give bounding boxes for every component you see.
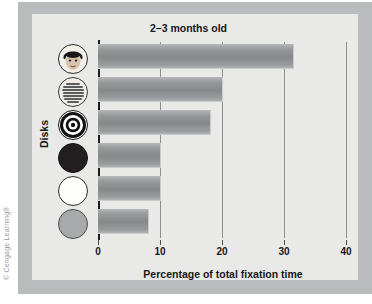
disk-swatch-layer xyxy=(0,0,372,304)
disk-printed-text xyxy=(58,77,88,107)
bullseye-icon xyxy=(59,111,87,139)
disk-solid-black xyxy=(58,143,88,173)
face-icon xyxy=(59,45,87,73)
disk-gray xyxy=(58,209,88,239)
disk-face xyxy=(58,44,88,74)
disk-bullseye xyxy=(58,110,88,140)
figure-container: © Cengage Learning® 2–3 months old Disks… xyxy=(0,0,372,304)
disk-white xyxy=(58,176,88,206)
